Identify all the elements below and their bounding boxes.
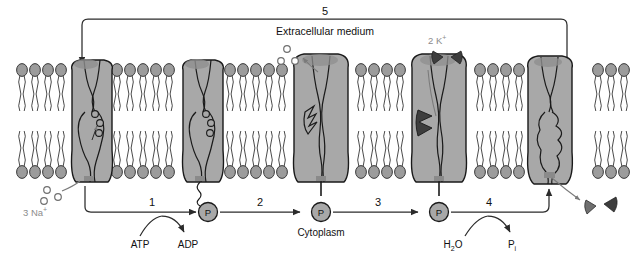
sodium-ion-bound xyxy=(92,111,99,118)
step-5-label: 5 xyxy=(322,5,328,17)
phosphate-letter: P xyxy=(318,207,324,218)
sodium-ion-free xyxy=(55,194,62,201)
phosphate-letter: P xyxy=(436,207,442,218)
step-3-label: 3 xyxy=(375,196,381,208)
sodium-ion-bound xyxy=(96,130,103,137)
pump-1 xyxy=(72,59,113,182)
sodium-ion-free xyxy=(41,198,48,205)
pump-cycle-diagram: 5 Extracellular medium xyxy=(0,0,640,253)
pump-3 xyxy=(294,54,349,196)
sodium-ion-free xyxy=(44,187,51,194)
phosphate-marker-1: P xyxy=(199,203,218,222)
step-4-label: 4 xyxy=(486,196,492,208)
atp-label: ATP xyxy=(131,239,150,250)
sodium-ion-bound xyxy=(208,120,215,127)
sodium-ion-free xyxy=(292,58,299,65)
sodium-ion-bound xyxy=(97,120,104,127)
step-2-label: 2 xyxy=(257,196,263,208)
phosphate-marker-2: P xyxy=(312,203,331,222)
sodium-ion-free xyxy=(284,46,291,53)
sodium-ion-bound xyxy=(207,130,214,137)
pump-4 xyxy=(412,54,467,196)
extracellular-medium-label: Extracellular medium xyxy=(276,25,374,37)
adp-label: ADP xyxy=(178,239,199,250)
phosphate-marker-3: P xyxy=(430,203,449,222)
sodium-ion-bound xyxy=(203,111,210,118)
step-1-label: 1 xyxy=(149,196,155,208)
phosphate-letter: P xyxy=(205,207,211,218)
sodium-ion-free xyxy=(278,58,285,65)
figure-canvas: 5 Extracellular medium xyxy=(0,0,640,253)
pump-5 xyxy=(528,56,573,184)
cytoplasm-label: Cytoplasm xyxy=(297,227,344,238)
